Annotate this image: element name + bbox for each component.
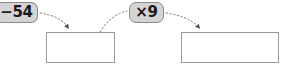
operation-pill-multiply: ×9 bbox=[129, 2, 164, 23]
operation-pill-subtract: −54 bbox=[0, 2, 38, 23]
arc-box1-to-multiply bbox=[100, 11, 127, 32]
arrow-multiply-to-box2 bbox=[166, 13, 199, 27]
answer-box-1[interactable] bbox=[46, 32, 115, 63]
arrow-subtract-to-box1 bbox=[40, 13, 68, 27]
worksheet-diagram: −54 ×9 bbox=[0, 0, 287, 69]
answer-box-2[interactable] bbox=[181, 32, 279, 63]
